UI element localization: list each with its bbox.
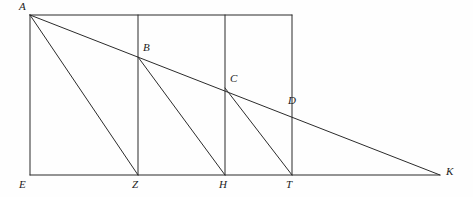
point-label-t: T — [286, 179, 292, 190]
point-label-e: E — [19, 179, 26, 190]
point-label-b: B — [143, 42, 150, 53]
point-label-z: Z — [132, 179, 138, 190]
geometry-canvas — [0, 0, 473, 197]
diagonal-segment-AZ — [30, 15, 138, 175]
diagonal-segment-BH — [138, 57, 225, 175]
point-label-c: C — [230, 73, 237, 84]
point-label-a: A — [19, 1, 26, 12]
geometry-figure: ABCDEZHTK — [0, 0, 473, 197]
segments-group — [30, 15, 440, 175]
point-label-k: K — [446, 166, 453, 177]
diagonal-segment-AK — [30, 15, 440, 175]
diagonal-segment-CT — [225, 88, 292, 175]
point-label-h: H — [219, 179, 227, 190]
point-label-d: D — [288, 95, 296, 106]
